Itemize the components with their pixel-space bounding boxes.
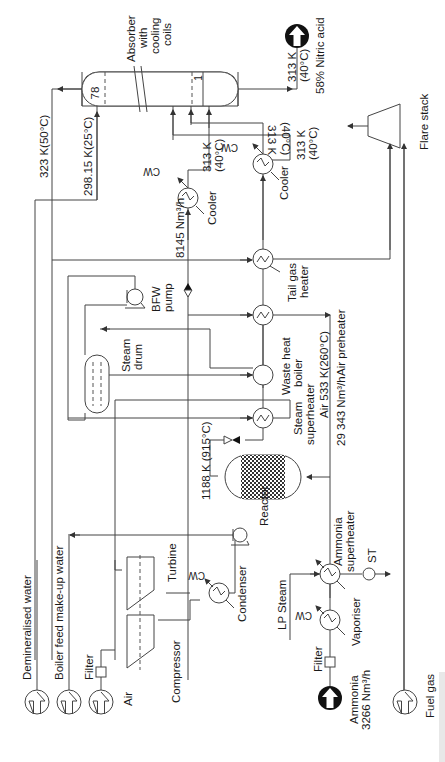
svg-text:3266 Nm³/h: 3266 Nm³/h xyxy=(360,670,372,730)
bfw-pump xyxy=(125,289,145,308)
svg-text:cooling: cooling xyxy=(149,18,161,54)
turbine-label: Turbine xyxy=(166,543,178,582)
nitric-acid-product-label: 58% Nitric acid xyxy=(314,17,326,94)
process-flow-diagram: 78 1 Absorber with cooling coils 313 K (… xyxy=(0,0,445,762)
lp-steam-label: LP Steam xyxy=(276,580,288,630)
svg-text:with: with xyxy=(137,28,149,49)
absorber-column xyxy=(82,66,238,112)
fuel-gas-icon xyxy=(393,690,417,714)
bfw-pump-label: BFW pump xyxy=(150,283,174,312)
nitric-acid-product-icon xyxy=(285,24,309,48)
absorber-tray-bottom-label: 1 xyxy=(193,75,204,81)
svg-text:drum: drum xyxy=(132,344,144,370)
stream-298k-label: 298.15 K(25°C) xyxy=(82,116,94,196)
air-filter xyxy=(96,667,106,677)
tail-gas-heater-label: Tail gas heater xyxy=(286,263,310,302)
svg-text:313 K: 313 K xyxy=(286,52,298,82)
cw-label-2: CW xyxy=(221,142,238,153)
absorber-label: Absorber with cooling coils xyxy=(125,15,173,62)
svg-text:Steam: Steam xyxy=(120,339,132,372)
cooler-1-label: Cooler xyxy=(206,191,218,225)
vaporiser-label: Vaporiser xyxy=(350,597,362,646)
reactor-temp-label: 1188 K (915°C) xyxy=(200,421,212,500)
svg-text:313 K: 313 K xyxy=(295,130,307,160)
svg-text:(40°C): (40°C) xyxy=(280,122,292,156)
stream-323k-label: 323 K(50°C) xyxy=(38,114,50,178)
ammonia-feed-icon xyxy=(318,686,342,710)
fuel-gas-label: Fuel gas xyxy=(424,674,436,718)
air-filter-label: Filter xyxy=(83,654,95,680)
steam-trap xyxy=(363,568,375,580)
loop-temp-label: 313 K (40°C) xyxy=(266,122,292,156)
air-preheater xyxy=(253,305,273,325)
condensate-pump xyxy=(231,528,249,545)
ammonia-feed-label: Ammonia 3266 Nm³/h xyxy=(348,670,372,730)
condenser-label: Condenser xyxy=(236,566,248,622)
svg-text:(40°C): (40°C) xyxy=(298,48,310,82)
svg-text:Ammonia: Ammonia xyxy=(332,517,344,566)
tail-gas-heater xyxy=(253,249,280,272)
svg-text:heater: heater xyxy=(298,265,310,298)
svg-text:Tail gas: Tail gas xyxy=(286,263,298,302)
steam-superheater xyxy=(253,408,273,428)
demineralised-water-label: Demineralised water xyxy=(21,575,33,680)
svg-text:Steam: Steam xyxy=(292,402,304,435)
flow-8145-label: 8145 Nm³/h xyxy=(174,198,186,258)
air-preheater-label: Air preheater xyxy=(335,309,347,376)
steam-drum xyxy=(85,355,109,413)
svg-text:boiler: boiler xyxy=(292,359,304,387)
compressor-label: Compressor xyxy=(170,640,182,703)
svg-text:superheater: superheater xyxy=(304,383,316,445)
svg-text:Waste heat: Waste heat xyxy=(280,336,292,395)
absorber-tray-top-label: 78 xyxy=(89,87,101,100)
ammonia-superheater-label: Ammonia superheater xyxy=(332,510,356,572)
air-533k-label: Air 533 K(260°C) xyxy=(318,331,330,418)
cw-label-4: CW xyxy=(295,610,312,621)
svg-text:313 K: 313 K xyxy=(201,142,213,172)
svg-text:Absorber: Absorber xyxy=(125,15,137,62)
svg-text:BFW: BFW xyxy=(150,286,162,312)
reactor-label: Reactor xyxy=(258,486,270,526)
svg-text:Ammonia: Ammonia xyxy=(348,675,360,724)
svg-text:coils: coils xyxy=(161,23,173,46)
boiler-feed-water-icon xyxy=(57,690,81,714)
cw-label-1: CW xyxy=(143,166,160,177)
steam-superheater-label: Steam superheater xyxy=(292,383,316,445)
boiler-feed-water-label: Boiler feed make-up water xyxy=(53,546,65,680)
svg-text:(40°C): (40°C) xyxy=(307,126,319,160)
svg-text:pump: pump xyxy=(162,283,174,312)
cooler-2-label: Cooler xyxy=(278,166,290,200)
cw-label-3: CW xyxy=(188,570,205,581)
air-feed-icon xyxy=(89,690,113,714)
svg-text:313 K: 313 K xyxy=(266,125,278,155)
flare-stack-label: Flare stack xyxy=(418,94,430,150)
st-label: ST xyxy=(366,548,378,563)
nitric-acid-temp-label: 313 K (40°C) xyxy=(286,48,310,82)
demineralised-water-icon xyxy=(25,690,49,714)
waste-heat-boiler xyxy=(253,365,273,385)
ammonia-filter xyxy=(325,657,335,667)
flow-29343-label: 29 343 Nm³/h xyxy=(335,376,347,446)
steam-drum-label: Steam drum xyxy=(120,339,144,372)
ammonia-filter-label: Filter xyxy=(312,646,324,672)
page-edge xyxy=(439,672,445,762)
cooler-2-temp-label: 313 K (40°C) xyxy=(295,126,319,160)
svg-text:superheater: superheater xyxy=(344,510,356,572)
waste-heat-boiler-label: Waste heat boiler xyxy=(280,336,304,395)
air-label: Air xyxy=(122,692,134,706)
flare-stack xyxy=(368,104,400,148)
